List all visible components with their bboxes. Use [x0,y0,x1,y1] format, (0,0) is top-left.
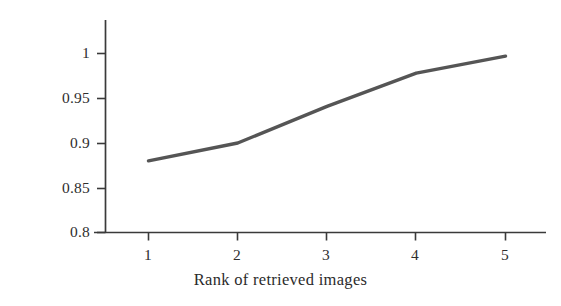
x-tick-label: 3 [322,246,330,264]
y-tick-marks [97,54,106,233]
x-tick-label: 2 [233,246,241,264]
chart-figure: 1 0.95 0.9 0.85 0.8 1 2 3 4 5 Rank of re… [0,0,561,306]
x-tick-marks [149,233,506,241]
x-tick-label: 4 [411,246,419,264]
data-series-line [149,56,506,161]
y-tick-label: 0.9 [40,134,90,152]
y-tick-label: 0.8 [40,223,90,241]
x-tick-label: 5 [501,246,509,264]
chart-axes [94,20,546,233]
y-tick-label: 0.95 [40,89,90,107]
x-tick-label: 1 [144,246,152,264]
y-tick-label: 0.85 [40,179,90,197]
x-axis-title: Rank of retrieved images [0,270,561,290]
y-tick-label: 1 [40,44,90,62]
